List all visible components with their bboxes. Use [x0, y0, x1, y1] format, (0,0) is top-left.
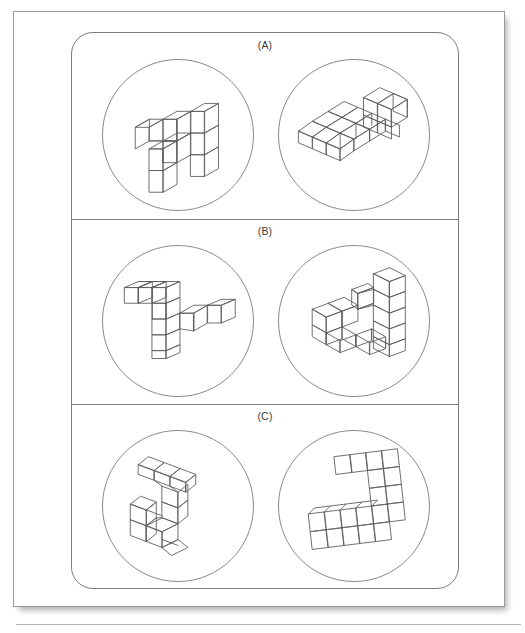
- panel-b: (B): [72, 219, 458, 405]
- cube-assembly-b-right-icon: [279, 246, 429, 396]
- figure-circle-c-left[interactable]: [102, 430, 254, 582]
- cube-assembly-c-right-icon: [279, 431, 429, 581]
- cube-assembly-a-left-icon: [103, 60, 253, 210]
- scan-baseline: [16, 624, 521, 625]
- figure-circle-a-right[interactable]: [278, 59, 430, 211]
- panel-c: (C): [72, 404, 458, 590]
- scanned-page: (A): [13, 11, 505, 607]
- figure-circle-b-right[interactable]: [278, 245, 430, 397]
- panel-a-label: (A): [72, 39, 458, 51]
- panel-c-label: (C): [72, 410, 458, 422]
- figure-frame: (A): [71, 32, 459, 589]
- figure-circle-b-left[interactable]: [102, 245, 254, 397]
- panel-a: (A): [72, 33, 458, 219]
- cube-assembly-b-left-icon: [103, 246, 253, 396]
- panel-b-label: (B): [72, 225, 458, 237]
- cube-assembly-a-right-icon: [279, 60, 429, 210]
- figure-circle-a-left[interactable]: [102, 59, 254, 211]
- figure-circle-c-right[interactable]: [278, 430, 430, 582]
- cube-assembly-c-left-icon: [103, 431, 253, 581]
